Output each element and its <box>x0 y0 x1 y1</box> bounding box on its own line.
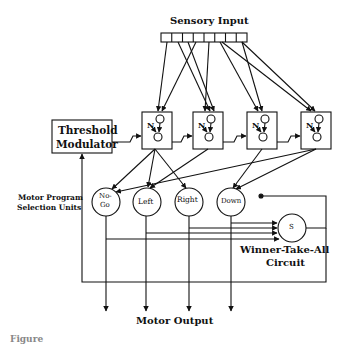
wta-label-line1: Winner-Take-All <box>240 244 329 255</box>
side-label-line1: Motor Program <box>18 193 83 202</box>
input-connections <box>158 42 315 111</box>
motor-output-label: Motor Output <box>136 315 213 326</box>
figure-caption: Figure <box>10 334 43 344</box>
nogo-label-2: Go <box>100 201 110 209</box>
sensory-input-array <box>161 33 247 42</box>
module-boxes <box>142 112 331 149</box>
wta-label-line2: Circuit <box>266 257 305 268</box>
module-label-2: N <box>198 120 205 130</box>
down-label: Down <box>221 197 241 205</box>
motor-output-lines <box>106 216 231 311</box>
right-label: Right <box>177 195 198 204</box>
sensory-input-label: Sensory Input <box>170 15 249 26</box>
module-outputs <box>112 149 316 192</box>
wta-inputs <box>106 223 279 239</box>
side-label-line2: Selection Units <box>17 203 81 212</box>
wta-node-label: S <box>289 223 294 231</box>
module-label-1: N <box>147 120 154 130</box>
module-label-3: N <box>252 120 259 130</box>
module-label-4: N <box>306 120 313 130</box>
nogo-label-1: No- <box>99 192 112 200</box>
threshold-label-line2: Modulator <box>56 138 118 150</box>
threshold-label-line1: Threshold <box>58 124 118 136</box>
diagram-canvas <box>0 0 348 344</box>
left-label: Left <box>138 197 153 206</box>
